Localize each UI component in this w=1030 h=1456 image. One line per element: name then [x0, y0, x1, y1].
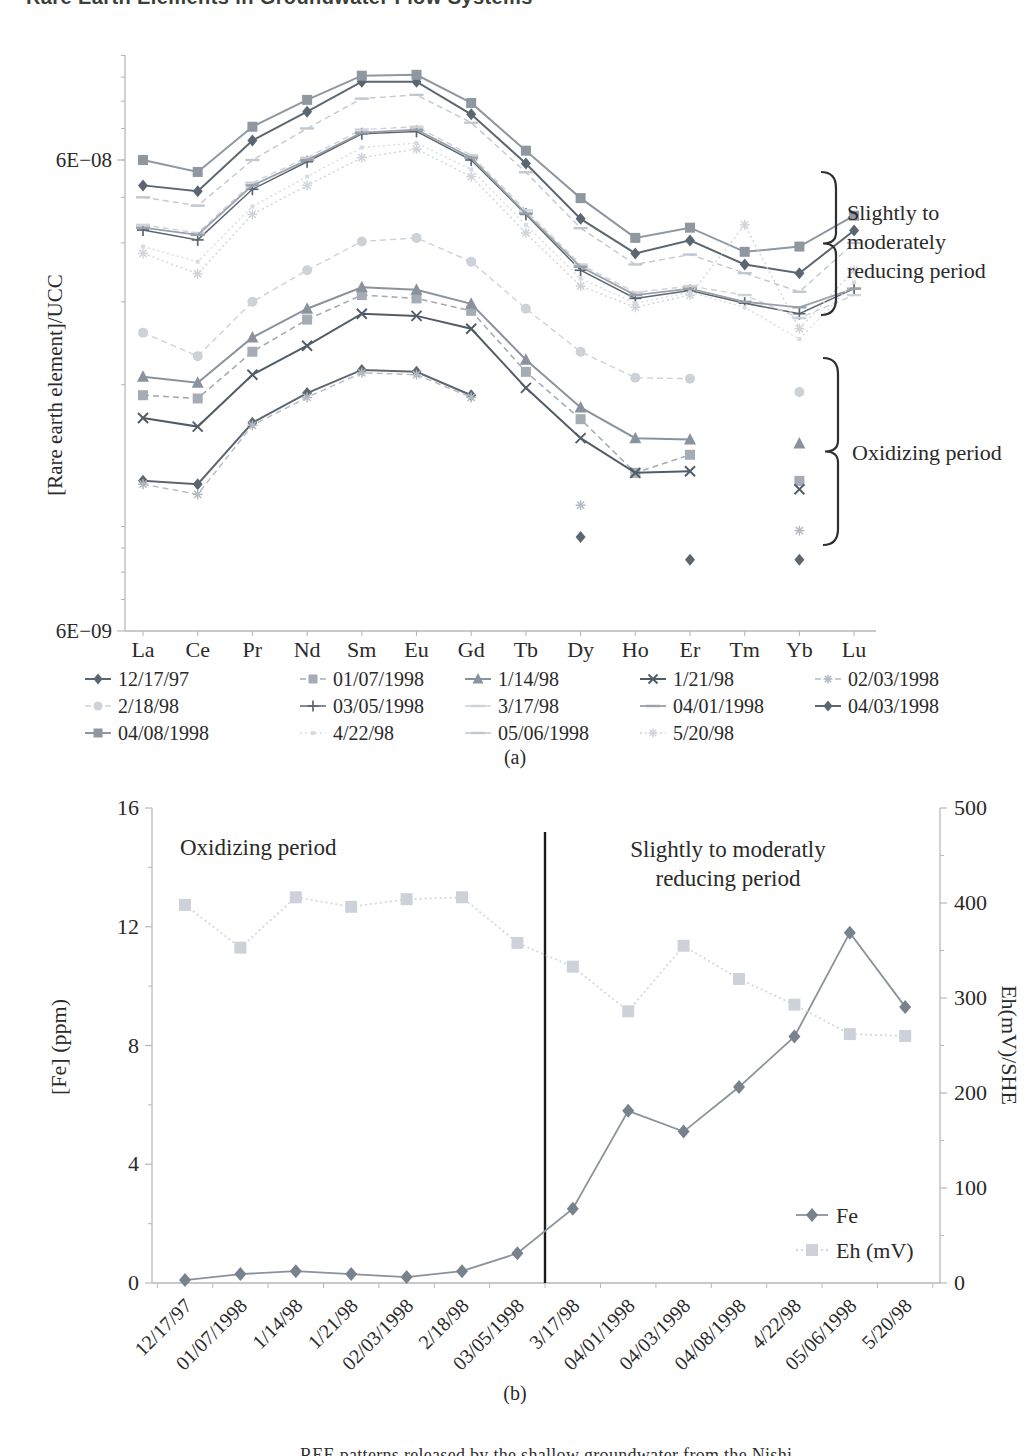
svg-text:Slightly to: Slightly to [847, 200, 939, 225]
legend-item-02/03/1998: 02/03/1998 [815, 668, 939, 690]
svg-text:Oxidizing period: Oxidizing period [852, 440, 1002, 465]
legend-item-12/17/97: 12/17/97 [85, 668, 189, 690]
legend-b: FeEh (mV) [796, 1203, 914, 1263]
svg-text:6E−09: 6E−09 [56, 619, 112, 643]
svg-text:100: 100 [954, 1175, 987, 1200]
svg-text:04/01/1998: 04/01/1998 [673, 695, 764, 717]
axes-b: 0481216010020030040050012/17/9701/07/199… [117, 795, 987, 1374]
ree-pattern-chart: 6E−086E−09LaCePrNdSmEuGdTbDyHoErTmYbLu[R… [0, 0, 1030, 775]
svg-text:1/14/98: 1/14/98 [248, 1294, 307, 1353]
legend-item-Fe: Fe [796, 1203, 858, 1228]
svg-text:8: 8 [128, 1033, 139, 1058]
svg-text:Sm: Sm [347, 637, 376, 662]
svg-text:Slightly to moderatly: Slightly to moderatly [630, 837, 826, 862]
svg-text:Tb: Tb [514, 637, 538, 662]
svg-text:400: 400 [954, 890, 987, 915]
svg-text:La: La [131, 637, 154, 662]
svg-text:Eh (mV): Eh (mV) [836, 1238, 914, 1263]
svg-text:5/20/98: 5/20/98 [857, 1294, 916, 1353]
svg-text:04/03/1998: 04/03/1998 [848, 695, 939, 717]
series-04/08/1998 [138, 70, 859, 257]
series-1/14/98 [137, 281, 805, 449]
legend-item-04/03/1998: 04/03/1998 [815, 695, 939, 717]
legend-item-2/18/98: 2/18/98 [85, 695, 179, 717]
legend-item-04/01/1998: 04/01/1998 [640, 695, 764, 717]
series-5/20/98 [138, 144, 859, 334]
figure-caption-text: REE patterns released by the shallow gro… [300, 1445, 1030, 1456]
svg-text:16: 16 [117, 795, 139, 820]
svg-text:12: 12 [117, 914, 139, 939]
svg-text:01/07/1998: 01/07/1998 [333, 668, 424, 690]
fe-eh-time-chart: 0481216010020030040050012/17/9701/07/199… [0, 775, 1030, 1456]
legend-item-1/21/98: 1/21/98 [640, 668, 734, 690]
svg-text:Ho: Ho [622, 637, 649, 662]
svg-text:0: 0 [128, 1270, 139, 1295]
svg-text:Er: Er [680, 637, 701, 662]
svg-text:Nd: Nd [294, 637, 321, 662]
legend-item-1/14/98: 1/14/98 [465, 668, 559, 690]
svg-text:Dy: Dy [567, 637, 594, 662]
series-04/03/1998 [138, 76, 859, 280]
svg-text:04/08/1998: 04/08/1998 [118, 722, 209, 744]
legend-item-Eh (mV): Eh (mV) [796, 1238, 914, 1263]
svg-text:4/22/98: 4/22/98 [333, 722, 394, 744]
axes-a: 6E−086E−09LaCePrNdSmEuGdTbDyHoErTmYbLu [56, 55, 876, 662]
y-axis-label-a: [Rare earth element]/UCC [43, 274, 67, 496]
svg-text:Ce: Ce [185, 637, 209, 662]
figure-caption-clipped: REE patterns released by the shallow gro… [300, 1445, 1030, 1456]
annotations-a: Slightly tomoderatelyreducing periodOxid… [821, 172, 1002, 545]
svg-text:3/17/98: 3/17/98 [498, 695, 559, 717]
legend-a: 12/17/9701/07/19981/14/981/21/9802/03/19… [85, 668, 939, 744]
series-02/03/1998 [138, 368, 804, 536]
svg-text:05/06/1998: 05/06/1998 [498, 722, 589, 744]
legend-item-05/06/1998: 05/06/1998 [465, 722, 589, 744]
y-axis-label-eh: Eh(mV)/SHE [997, 985, 1022, 1105]
svg-text:Eu: Eu [404, 637, 428, 662]
svg-text:reducing period: reducing period [656, 866, 801, 891]
svg-text:200: 200 [954, 1080, 987, 1105]
svg-text:Yb: Yb [786, 637, 813, 662]
series-3/17/98 [136, 127, 861, 318]
caption-b: (b) [0, 1382, 1030, 1405]
series-03/05/1998 [137, 125, 860, 319]
series-4/22/98 [141, 141, 856, 341]
svg-text:Oxidizing period: Oxidizing period [180, 835, 337, 860]
legend-item-04/08/1998: 04/08/1998 [85, 722, 209, 744]
svg-text:2/18/98: 2/18/98 [118, 695, 179, 717]
svg-text:Lu: Lu [842, 637, 866, 662]
svg-text:02/03/1998: 02/03/1998 [848, 668, 939, 690]
annotations-b: Oxidizing periodSlightly to moderatlyred… [180, 835, 826, 891]
y-axis-label-fe: [Fe] (ppm) [46, 999, 71, 1095]
legend-item-03/05/1998: 03/05/1998 [300, 695, 424, 717]
svg-text:6E−08: 6E−08 [56, 148, 112, 172]
svg-text:1/21/98: 1/21/98 [673, 668, 734, 690]
svg-text:moderately: moderately [847, 229, 946, 254]
svg-text:03/05/1998: 03/05/1998 [333, 695, 424, 717]
svg-text:Fe: Fe [836, 1203, 858, 1228]
svg-text:500: 500 [954, 795, 987, 820]
legend-item-3/17/98: 3/17/98 [465, 695, 559, 717]
svg-text:300: 300 [954, 985, 987, 1010]
series-04/01/1998 [136, 130, 861, 308]
svg-text:Tm: Tm [729, 637, 760, 662]
caption-a: (a) [0, 746, 1030, 769]
svg-text:0: 0 [954, 1270, 965, 1295]
legend-item-4/22/98: 4/22/98 [300, 722, 394, 744]
svg-text:1/14/98: 1/14/98 [498, 668, 559, 690]
svg-text:12/17/97: 12/17/97 [118, 668, 189, 690]
legend-item-5/20/98: 5/20/98 [640, 722, 734, 744]
legend-item-01/07/1998: 01/07/1998 [300, 668, 424, 690]
svg-text:4: 4 [128, 1151, 139, 1176]
svg-text:Gd: Gd [458, 637, 485, 662]
svg-text:reducing period: reducing period [847, 258, 986, 283]
svg-text:5/20/98: 5/20/98 [673, 722, 734, 744]
svg-text:Pr: Pr [243, 637, 263, 662]
